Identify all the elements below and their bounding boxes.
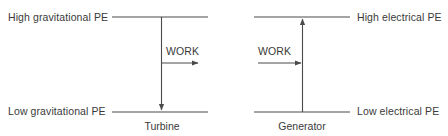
- label-low-gravitational-pe: Low gravitational PE: [8, 105, 106, 117]
- caption-turbine: Turbine: [132, 120, 192, 132]
- label-high-gravitational-pe: High gravitational PE: [8, 11, 108, 23]
- label-low-electrical-pe: Low electrical PE: [357, 105, 439, 117]
- label-work-turbine: WORK: [166, 45, 199, 57]
- label-work-generator: WORK: [258, 45, 291, 57]
- generator-diagram-group: [254, 17, 350, 112]
- turbine-diagram-group: [112, 17, 208, 112]
- caption-generator: Generator: [272, 120, 332, 132]
- label-high-electrical-pe: High electrical PE: [357, 11, 442, 23]
- diagram-canvas: High gravitational PE Low gravitational …: [0, 0, 448, 136]
